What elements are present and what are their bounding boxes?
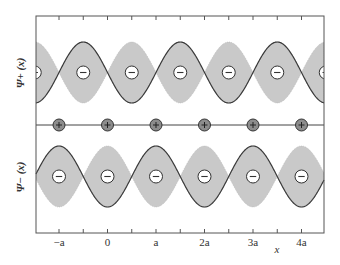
positive-ion-icon <box>296 119 308 131</box>
minus-charge-icon <box>295 170 308 183</box>
minus-charge-icon <box>222 66 235 79</box>
minus-charge-icon <box>77 66 90 79</box>
x-tick-label: 3a <box>248 236 259 248</box>
minus-charge-icon <box>125 66 138 79</box>
positive-ion-icon <box>53 119 65 131</box>
minus-charge-icon <box>174 66 187 79</box>
minus-charge-icon <box>247 170 260 183</box>
positive-ion-icon <box>102 119 114 131</box>
minus-circle <box>28 66 41 79</box>
positive-ion-icon <box>199 119 211 131</box>
minus-charge-icon <box>101 170 114 183</box>
ylabel-psi-plus: Ψ+ (x) <box>14 58 27 89</box>
wavefunction-figure: −a0a2a3a4a Ψ+ (x) Ψ− (x) x <box>0 0 340 265</box>
x-tick-label: 2a <box>199 236 210 248</box>
minus-circle <box>319 66 332 79</box>
x-tick-label: 0 <box>105 236 111 248</box>
positive-ion-icon <box>150 119 162 131</box>
xaxis-label: x <box>274 243 280 255</box>
minus-charge-icon <box>28 66 41 79</box>
x-tick-label: a <box>154 236 159 248</box>
x-tick-labels: −a0a2a3a4a <box>53 236 306 248</box>
x-tick-label: −a <box>53 236 64 248</box>
ion-lattice <box>36 119 324 131</box>
x-tick-label: 4a <box>296 236 307 248</box>
minus-charge-icon <box>150 170 163 183</box>
minus-charge-icon <box>271 66 284 79</box>
positive-ion-icon <box>247 119 259 131</box>
minus-charge-icon <box>53 170 66 183</box>
minus-charge-icon <box>319 66 332 79</box>
ylabel-psi-minus: Ψ− (x) <box>14 161 27 192</box>
minus-charge-icon <box>198 170 211 183</box>
